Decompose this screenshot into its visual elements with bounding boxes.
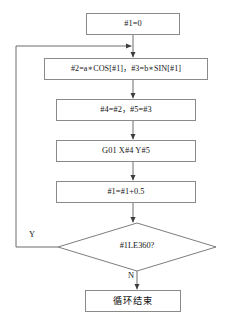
- node-init-label: #1=0: [124, 20, 142, 29]
- node-end-label: 循环结束: [113, 296, 154, 306]
- flowchart-diagram: #1=0 #2=a∗COS[#1]，#3=b∗SIN[#1] #4=#2，#5=…: [0, 0, 246, 327]
- node-condition: #1LE360?: [58, 241, 216, 250]
- node-increment: #1=#1+0.5: [56, 181, 196, 203]
- node-compute-xy: #2=a∗COS[#1]，#3=b∗SIN[#1]: [44, 58, 208, 80]
- edge-label-no-text: N: [128, 271, 134, 280]
- flowchart-connectors-layer: [0, 0, 246, 327]
- node-move: G01 X#4 Y#5: [56, 140, 196, 162]
- edge-label-yes: Y: [29, 230, 35, 239]
- edge-label-yes-text: Y: [29, 230, 35, 239]
- node-move-label: G01 X#4 Y#5: [102, 147, 150, 156]
- node-init: #1=0: [86, 13, 180, 35]
- node-condition-label: #1LE360?: [120, 241, 155, 250]
- node-compute-xy-label: #2=a∗COS[#1]，#3=b∗SIN[#1]: [71, 65, 181, 73]
- node-increment-label: #1=#1+0.5: [107, 188, 144, 197]
- node-assign-label: #4=#2，#5=#3: [100, 106, 152, 115]
- node-end: 循环结束: [85, 290, 181, 312]
- node-assign: #4=#2，#5=#3: [56, 99, 196, 121]
- edge-label-no: N: [128, 271, 134, 280]
